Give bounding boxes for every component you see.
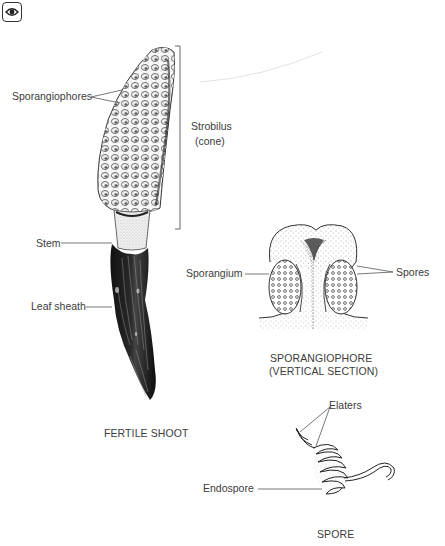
sporangiophore-illustration	[259, 225, 368, 330]
label-stem: Stem	[36, 237, 61, 250]
caption-spore: SPORE	[317, 528, 354, 541]
label-sporangium: Sporangium	[186, 267, 243, 280]
spore-illustration	[296, 428, 394, 498]
strobilus-bracket	[175, 46, 180, 229]
caption-vertical-section: (VERTICAL SECTION)	[269, 365, 378, 378]
label-sporangiophores: Sporangiophores	[12, 90, 92, 103]
label-strobilus-cone: (cone)	[195, 135, 225, 148]
label-strobilus: Strobilus	[191, 120, 232, 133]
caption-sporangiophore: SPORANGIOPHORE	[270, 352, 372, 365]
label-leaf-sheath: Leaf sheath	[31, 300, 86, 313]
label-elaters: Elaters	[329, 399, 362, 412]
label-endospore: Endospore	[203, 482, 254, 495]
caption-fertile-shoot: FERTILE SHOOT	[104, 427, 189, 440]
label-spores: Spores	[396, 266, 429, 279]
fertile-shoot-illustration	[98, 47, 175, 400]
